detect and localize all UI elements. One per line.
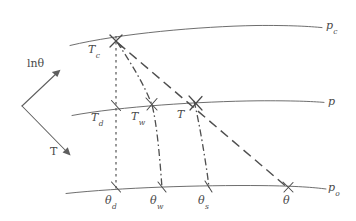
theta-d-subscript: d bbox=[112, 202, 117, 211]
Td-subscript: d bbox=[99, 119, 104, 128]
label-theta: θ bbox=[283, 195, 290, 209]
label-Tw: Tw bbox=[131, 111, 145, 125]
label-T: T bbox=[177, 109, 184, 123]
Tw-subscript: w bbox=[139, 118, 145, 127]
isobar-po-label: po bbox=[328, 182, 340, 196]
isobar-curves bbox=[66, 25, 326, 193]
T-base: T bbox=[177, 108, 184, 121]
ln-prefix: ln bbox=[27, 57, 38, 70]
pc-subscript: c bbox=[333, 27, 337, 36]
temperature-axis-arrow bbox=[22, 106, 68, 153]
isobar-pc-label: pc bbox=[326, 20, 337, 34]
p-base: p bbox=[328, 95, 335, 108]
ln-theta-axis-label: lnθ bbox=[27, 57, 44, 70]
Td-base: T bbox=[91, 111, 98, 124]
temperature-axis-label: T bbox=[50, 145, 57, 158]
ln-theta-axis-arrow bbox=[22, 72, 58, 106]
theta-s-subscript: s bbox=[205, 202, 209, 211]
marker-theta-d bbox=[112, 182, 121, 192]
label-theta-s: θs bbox=[198, 195, 208, 209]
pc-base: p bbox=[326, 19, 333, 32]
po-subscript: o bbox=[335, 189, 340, 198]
theta-w-subscript: w bbox=[157, 202, 163, 211]
marker-Tw bbox=[146, 98, 157, 110]
marker-theta-s bbox=[205, 181, 212, 192]
marker-theta bbox=[283, 182, 293, 192]
label-Tc: Tc bbox=[88, 44, 100, 58]
isobar-pc-curve bbox=[70, 25, 322, 45]
theta-d-base: θ bbox=[105, 194, 112, 207]
thermodynamic-diagram: lnθ T pc p po Tc Td Tw T θd θw θs θ bbox=[0, 0, 356, 221]
theta-s-base: θ bbox=[198, 194, 205, 207]
isobar-p-curve bbox=[72, 101, 324, 116]
label-theta-d: θd bbox=[105, 195, 116, 209]
theta-symbol: θ bbox=[38, 57, 45, 70]
label-Td: Td bbox=[91, 112, 103, 126]
axis-indicator bbox=[22, 70, 71, 156]
Tc-subscript: c bbox=[96, 51, 100, 60]
label-theta-w: θw bbox=[150, 195, 163, 209]
theta-w-base: θ bbox=[150, 194, 157, 207]
theta-base: θ bbox=[283, 194, 290, 207]
Tw-base: T bbox=[131, 110, 138, 123]
po-base: p bbox=[328, 181, 335, 194]
Tc-base: T bbox=[88, 43, 95, 56]
isobar-p-label: p bbox=[328, 96, 335, 110]
